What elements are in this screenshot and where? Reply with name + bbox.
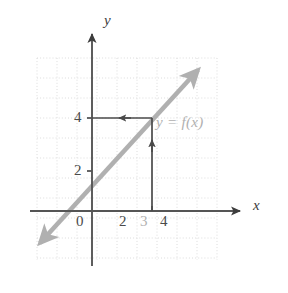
x-tick-label-2: 2 bbox=[119, 214, 127, 229]
origin-tick-label: 0 bbox=[76, 214, 84, 229]
y-axis-label: y bbox=[104, 13, 111, 28]
graph-canvas bbox=[0, 0, 288, 293]
x-tick-label-4: 4 bbox=[160, 214, 168, 229]
x-tick-label-3: 3 bbox=[140, 214, 148, 229]
y-tick-label-4: 4 bbox=[74, 110, 82, 125]
grid-lines bbox=[37, 58, 217, 260]
function-equation-label: y = f(x) bbox=[156, 115, 204, 130]
x-axis-label: x bbox=[253, 198, 260, 213]
y-tick-label-2: 2 bbox=[74, 163, 82, 178]
function-graph-figure: y x 0 2 4 2 3 4 y = f(x) bbox=[0, 0, 288, 293]
